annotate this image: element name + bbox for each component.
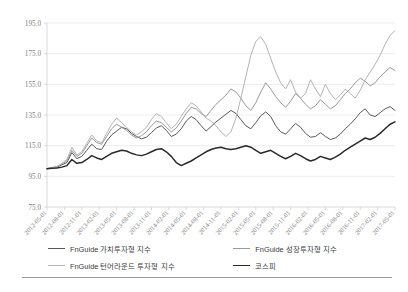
footer-divider: [22, 277, 392, 278]
legend-item-growth-index[interactable]: FnGuide 성장투자형 지수: [229, 243, 386, 254]
legend-row-1: FnGuide 가치투자형 지수 FnGuide 성장투자형 지수: [34, 240, 386, 257]
legend-label-value-index: FnGuide 가치투자형 지수: [70, 243, 151, 254]
legend-item-turnaround-index[interactable]: FnGuide 턴어라운드 투자형 지수: [34, 260, 229, 271]
chart-legend: FnGuide 가치투자형 지수 FnGuide 성장투자형 지수 FnGuid…: [34, 240, 386, 278]
legend-label-turnaround-index: FnGuide 턴어라운드 투자형 지수: [70, 260, 175, 271]
legend-label-growth-index: FnGuide 성장투자형 지수: [255, 243, 336, 254]
series-line-3: [47, 122, 395, 169]
y-axis-label: 95.0: [28, 173, 41, 181]
y-axis-label: 195.0: [25, 20, 42, 28]
y-axis-label: 115.0: [25, 142, 41, 150]
legend-swatch-turnaround-index: [48, 265, 65, 266]
legend-swatch-growth-index: [233, 248, 250, 249]
legend-item-kospi[interactable]: 코스피: [229, 260, 386, 271]
legend-label-kospi: 코스피: [255, 260, 276, 271]
legend-item-value-index[interactable]: FnGuide 가치투자형 지수: [34, 243, 229, 254]
line-chart: 75.095.0115.0135.0155.0175.0195.02012-05…: [0, 0, 408, 292]
y-axis-label: 135.0: [25, 112, 42, 120]
legend-row-2: FnGuide 턴어라운드 투자형 지수 코스피: [34, 257, 386, 274]
y-axis-label: 175.0: [25, 50, 42, 58]
legend-swatch-kospi: [233, 265, 250, 266]
y-axis-label: 75.0: [28, 204, 41, 212]
legend-swatch-value-index: [48, 248, 65, 249]
y-axis-label: 155.0: [25, 81, 42, 89]
